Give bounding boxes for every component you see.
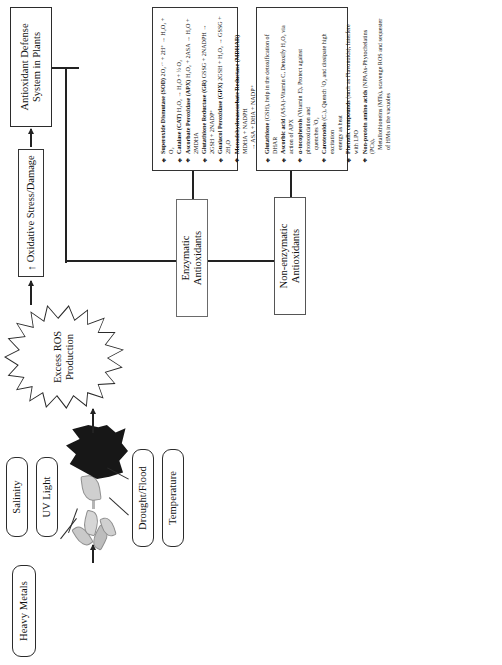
starburst-label: Excess ROS Production bbox=[4, 305, 124, 409]
connector-nonenzymatic-to-panel bbox=[290, 171, 292, 197]
nonenzymatic-antioxidants-box: Non-enzymatic Antioxidants bbox=[274, 197, 306, 315]
antioxidant-detail-continuation: energy as heat bbox=[337, 16, 345, 154]
antioxidant-name: α-tocopherols bbox=[297, 119, 303, 154]
nonenzymatic-line-1: Non-enzymatic bbox=[278, 224, 289, 289]
stressor-label: Temperature bbox=[167, 471, 179, 525]
antioxidant-name: Glutathione bbox=[264, 123, 270, 154]
nonenzymatic-line-2: Antioxidants bbox=[290, 229, 301, 283]
diamond-bullet-icon: ❖ bbox=[184, 158, 192, 163]
enzyme-equation: H₂O₂ → H₂O + ½ O₂ bbox=[176, 60, 182, 112]
diamond-bullet-icon: ❖ bbox=[345, 158, 353, 163]
list-item: ❖ Glutathione (GSH), help in the detoxif… bbox=[264, 16, 280, 163]
diamond-bullet-icon: ❖ bbox=[201, 158, 209, 163]
antioxidant-defense-system-box: Antioxidant Defense System in Plants bbox=[10, 7, 52, 127]
list-item: ❖ Phenolic compounds (such as Flavonoids… bbox=[345, 16, 361, 163]
enzyme-name: Ascorbate Peroxidase (APX) bbox=[185, 80, 191, 154]
stressor-box-temperature: Temperature bbox=[162, 449, 184, 547]
antioxidant-name: Carotenoids bbox=[321, 122, 327, 154]
stressor-label: Salinity bbox=[11, 480, 23, 513]
stressed-plant-icon bbox=[66, 425, 128, 553]
enzyme-name: Superoxide Dismutase (SOD) bbox=[160, 78, 166, 154]
branch-horizontal-line bbox=[65, 67, 67, 263]
enzyme-equation: MDHA + NADPH bbox=[242, 108, 248, 154]
defense-system-label: Antioxidant Defense System in Plants bbox=[19, 8, 43, 126]
enzymatic-antioxidants-box: Enzymatic Antioxidants bbox=[176, 199, 208, 317]
branch-trunk-line bbox=[52, 68, 66, 70]
stressor-box-salinity: Salinity bbox=[6, 457, 28, 537]
list-item: ❖ Non-protein amino acids (NPAAs-Phytoch… bbox=[362, 16, 394, 163]
arrow-plant-to-ros bbox=[92, 409, 94, 433]
excess-ros-production-burst: Excess ROS Production bbox=[4, 305, 124, 409]
ros-burst-icon bbox=[66, 425, 128, 479]
diagram-canvas: Heavy Metals Salinity UV Light Drought/F… bbox=[0, 0, 502, 665]
ros-line-2: Production bbox=[64, 334, 75, 380]
diamond-bullet-icon: ❖ bbox=[280, 158, 288, 163]
list-item: ❖ Ascorbate Peroxidase (APX) H₂O₂ + 2ASA… bbox=[185, 16, 201, 163]
branch-drop-nonenzymatic bbox=[65, 68, 79, 70]
diamond-bullet-icon: ❖ bbox=[296, 158, 304, 163]
enzyme-name: Glutathione Reductase (GR) bbox=[201, 80, 207, 154]
antioxidant-name: Phenolic compounds bbox=[345, 100, 351, 154]
stressor-label: Drought/Flood bbox=[137, 466, 149, 530]
nonenzymatic-antioxidants-detail-panel: ❖ Glutathione (GSH), help in the detoxif… bbox=[256, 7, 348, 171]
diamond-bullet-icon: ❖ bbox=[217, 158, 225, 163]
list-item: ❖ Monodehydroascorbate Reductase (MDHAR)… bbox=[234, 16, 258, 163]
oxidative-stress-box: ↑ Oxidative Stress/Damage bbox=[18, 149, 44, 277]
connector-enzymatic-to-panel bbox=[192, 171, 194, 199]
enzymatic-antioxidants-detail-panel: ❖ Superoxide Dismutase (SOD) 2O₂·⁻ + 2H⁺… bbox=[152, 7, 238, 171]
up-arrow-icon: ↑ bbox=[25, 265, 37, 271]
branch-drop-enzymatic bbox=[65, 261, 176, 263]
enzymatic-line-1: Enzymatic bbox=[180, 236, 191, 281]
diamond-bullet-icon: ❖ bbox=[176, 158, 184, 163]
ros-line-1: Excess ROS bbox=[52, 331, 63, 383]
enzyme-name: Guaiacol Peroxidase (GPX) bbox=[217, 82, 223, 154]
plant-leaves-icon bbox=[74, 505, 118, 551]
figure-rotator: Heavy Metals Salinity UV Light Drought/F… bbox=[0, 0, 502, 665]
enzyme-name: Catalase (CAT) bbox=[176, 114, 182, 154]
antioxidant-detail-continuation: Metallothioneins (MTs), scavenge ROS and… bbox=[377, 16, 393, 154]
list-item: ❖ Carotenoids (Cₓ), Quench ¹O₂ and dissi… bbox=[321, 16, 345, 163]
stressor-box-drought-flood: Drought/Flood bbox=[132, 449, 154, 547]
diamond-bullet-icon: ❖ bbox=[264, 158, 272, 163]
list-item: ❖ Catalase (CAT) H₂O₂ → H₂O + ½ O₂ bbox=[176, 16, 184, 163]
diamond-bullet-icon: ❖ bbox=[320, 158, 328, 163]
nonenzymatic-list: ❖ Glutathione (GSH), help in the detoxif… bbox=[264, 16, 393, 163]
list-item: ❖ α-tocopherols (Vitamin E), Protect aga… bbox=[297, 16, 321, 163]
list-item: ❖ Glutathione Reductase (GR) GSSG + 2NAD… bbox=[201, 16, 217, 163]
enzyme-name: Monodehydroascorbate Reductase (MDHAR) bbox=[234, 35, 240, 154]
list-item: ❖ Guaiacol Peroxidase (GPX) 2GSH + H₂O₂ … bbox=[217, 16, 233, 163]
arrow-oxidative-to-defense bbox=[30, 129, 32, 147]
stressor-box-uv-light: UV Light bbox=[36, 457, 58, 537]
oxidative-stress-label: Oxidative Stress/Damage bbox=[25, 155, 37, 262]
enzymatic-line-2: Antioxidants bbox=[192, 231, 203, 285]
list-item: ❖ Superoxide Dismutase (SOD) 2O₂·⁻ + 2H⁺… bbox=[160, 16, 176, 163]
stressor-label: UV Light bbox=[41, 476, 53, 517]
stressor-box-heavy-metals: Heavy Metals bbox=[12, 565, 36, 657]
stressor-label: Heavy Metals bbox=[18, 581, 30, 641]
arrow-heavymetals-to-plant bbox=[92, 545, 94, 563]
list-item: ❖ Ascorbic acid (ASA)-Vitamin C, Detoxif… bbox=[280, 16, 296, 163]
diamond-bullet-icon: ❖ bbox=[233, 158, 241, 163]
arrow-ros-to-oxidative bbox=[30, 281, 32, 305]
antioxidant-detail-continuation: quenches ¹O₂ bbox=[313, 16, 321, 154]
antioxidant-name: Non-protein amino acids bbox=[362, 90, 368, 154]
diamond-bullet-icon: ❖ bbox=[160, 158, 168, 163]
antioxidant-name: Ascorbic acid bbox=[280, 119, 286, 154]
diamond-bullet-icon: ❖ bbox=[361, 158, 369, 163]
